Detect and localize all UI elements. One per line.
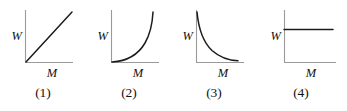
panel-3-y-axis-label: W (179, 30, 193, 43)
panel-2-y-axis-label: W (94, 30, 108, 43)
panel-4-x-axis-label: M (303, 67, 319, 80)
panel-2-caption: (2) (86, 86, 172, 100)
panel-4: W M (4) (258, 0, 344, 111)
panel-1: W M (1) (0, 0, 86, 111)
panel-1-curve (26, 12, 72, 62)
panel-4-y-axis-label: W (267, 30, 281, 43)
panel-3-x-axis-label: M (215, 67, 231, 80)
panel-2-curve (112, 12, 153, 62)
panel-3-caption: (3) (171, 86, 257, 100)
figure-container: W M (1) W M (2) W M (3) W M (4) (0, 0, 347, 111)
panel-3-curve (197, 12, 238, 61)
panel-2: W M (2) (86, 0, 172, 111)
panel-2-x-axis-label: M (130, 67, 146, 80)
panel-3: W M (3) (171, 0, 257, 111)
panel-1-x-axis-label: M (44, 67, 60, 80)
panel-1-y-axis-label: W (8, 30, 22, 43)
panel-4-caption: (4) (258, 86, 344, 100)
panel-1-caption: (1) (0, 86, 86, 100)
